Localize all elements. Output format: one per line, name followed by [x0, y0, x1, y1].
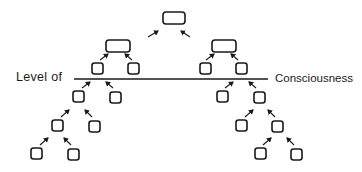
- node-box-R2a: [217, 91, 228, 102]
- node-box-L2b: [110, 92, 121, 103]
- node-box-L1b: [128, 63, 139, 74]
- node-box-R1b: [236, 63, 247, 74]
- arrow-icon: [82, 82, 90, 88]
- node-box-L2a: [73, 91, 84, 102]
- arrow-icon: [245, 110, 253, 117]
- arrow-icon: [287, 138, 294, 145]
- arrow-icon: [263, 138, 271, 145]
- arrow-icon: [181, 31, 190, 37]
- node-box-R4b: [291, 149, 302, 160]
- node-box-mid-left: [106, 40, 130, 52]
- arrow-icon: [106, 82, 113, 88]
- arrow-icon: [268, 110, 275, 117]
- node-box-R2b: [254, 92, 265, 103]
- consciousness-label: Consciousness: [275, 72, 353, 84]
- arrow-icon: [249, 82, 256, 88]
- arrow-icon: [64, 138, 71, 145]
- node-box-R3b: [272, 121, 283, 132]
- node-box-R3a: [236, 120, 247, 131]
- arrow-icon: [231, 54, 238, 60]
- hierarchy-diagram: [0, 0, 362, 172]
- level-of-label: Level of: [16, 71, 62, 83]
- node-box-R4a: [255, 148, 266, 159]
- node-box-L3b: [89, 121, 100, 132]
- arrow-icon: [40, 138, 48, 145]
- node-box-mid-right: [212, 40, 236, 52]
- node-box-L4b: [68, 149, 79, 160]
- arrow-icon: [100, 54, 108, 60]
- arrow-icon: [61, 110, 69, 117]
- arrow-icon: [148, 31, 158, 37]
- node-box-top: [163, 12, 185, 24]
- arrow-icon: [225, 82, 233, 88]
- arrow-icon: [85, 110, 92, 117]
- arrow-icon: [125, 54, 132, 60]
- node-box-L1a: [92, 63, 103, 74]
- node-box-L3a: [52, 120, 63, 131]
- arrow-icon: [206, 54, 214, 60]
- node-box-R1a: [200, 63, 211, 74]
- node-box-L4a: [31, 148, 42, 159]
